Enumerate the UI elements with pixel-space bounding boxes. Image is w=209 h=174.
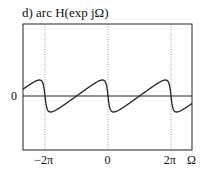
x-tick-label: −2π bbox=[34, 153, 53, 168]
x-tick-label: 2π bbox=[164, 153, 176, 168]
y-tick-zero: 0 bbox=[11, 89, 17, 104]
x-axis-label: Ω bbox=[187, 153, 196, 168]
axes-frame bbox=[23, 24, 192, 150]
plot-area bbox=[0, 0, 209, 174]
x-tick-label: 0 bbox=[105, 153, 111, 168]
